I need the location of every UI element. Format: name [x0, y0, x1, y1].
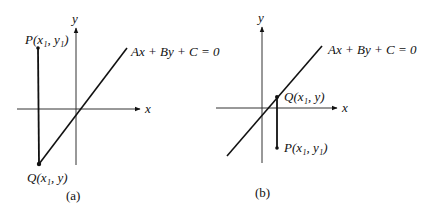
point-q-b [275, 95, 279, 99]
y-axis-label-a: y [72, 12, 78, 25]
line-ax-by-c-a [39, 48, 127, 164]
caption-b: (b) [255, 186, 270, 199]
y-axis-label-b: y [258, 11, 264, 24]
point-p-b [275, 146, 279, 150]
equation-label-b: Ax + By + C = 0 [328, 43, 416, 56]
point-p-label-b: P(x₁, y₁) [284, 141, 328, 154]
point-q-a [37, 162, 41, 166]
x-axis-label-b: x [342, 101, 348, 114]
equation-label-a: Ax + By + C = 0 [131, 45, 219, 58]
point-q-label-a: Q(x₁, y) [27, 171, 68, 184]
panel-a [17, 28, 140, 166]
segment-pq-a [38, 48, 39, 164]
caption-a: (a) [66, 189, 80, 202]
point-p-label-a: P(x₁, y₁) [25, 33, 69, 46]
x-axis-label-a: x [145, 102, 151, 115]
point-q-label-b: Q(x₁, y) [284, 90, 325, 103]
